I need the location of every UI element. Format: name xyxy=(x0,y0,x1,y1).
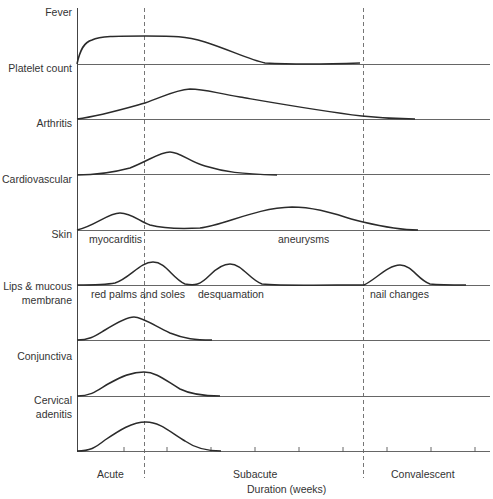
phase-convalescent: Convalescent xyxy=(391,468,455,480)
baselines xyxy=(77,65,490,452)
curve-cervical xyxy=(77,422,221,451)
annotation-myocarditis: myocarditis xyxy=(89,233,142,245)
annotation-desquamation: desquamation xyxy=(198,288,264,300)
row-label-cervical-2: adenitis xyxy=(36,408,72,420)
curve-fever xyxy=(77,36,360,64)
row-label-lips-2: membrane xyxy=(22,294,72,306)
annotation-nail-changes: nail changes xyxy=(370,288,429,300)
row-label-platelet: Platelet count xyxy=(8,62,72,74)
row-label-arthritis: Arthritis xyxy=(36,117,72,129)
curve-skin xyxy=(77,262,466,285)
curve-cardiovascular xyxy=(77,207,418,230)
row-label-cardiovascular: Cardiovascular xyxy=(2,173,73,185)
curve-lips xyxy=(77,317,212,340)
phase-acute: Acute xyxy=(97,468,124,480)
row-label-lips-1: Lips & mucous xyxy=(3,280,72,292)
row-label-fever: Fever xyxy=(45,6,72,18)
kawasaki-timeline-diagram: Fever Platelet count Arthritis Cardiovas… xyxy=(0,0,493,499)
phase-subacute: Subacute xyxy=(233,468,278,480)
phase-labels: Acute Subacute Convalescent Duration (we… xyxy=(97,468,455,495)
curve-arthritis xyxy=(77,152,277,175)
row-labels: Fever Platelet count Arthritis Cardiovas… xyxy=(2,6,73,420)
x-axis-label: Duration (weeks) xyxy=(247,483,326,495)
row-label-skin: Skin xyxy=(52,228,73,240)
annotation-red-palms: red palms and soles xyxy=(91,288,185,300)
row-label-cervical-1: Cervical xyxy=(34,394,72,406)
curve-platelet xyxy=(77,89,415,119)
curve-conjunctiva xyxy=(77,372,220,396)
row-label-conjunctiva: Conjunctiva xyxy=(17,350,72,362)
annotation-aneurysms: aneurysms xyxy=(278,233,329,245)
